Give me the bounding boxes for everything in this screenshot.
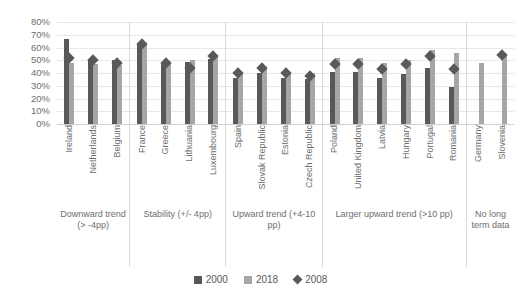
legend-label: 2018 [256,274,278,285]
bar-cluster[interactable] [346,22,370,124]
bar-2018[interactable] [262,67,267,124]
category-label-text: Hungary [402,125,411,161]
category-label-text: Latvia [378,125,387,151]
chart-legend: 200020182008 [0,274,521,285]
category-label-text: Greece [161,125,170,157]
legend-item[interactable]: 2000 [194,274,228,285]
bar-2018[interactable] [117,65,122,124]
category-label-group: FranceGreeceLithuaniaLuxembourg [129,125,225,205]
category-label-text: Belgium [113,125,122,160]
category-label: Portugal [418,125,442,205]
chart-container: 80%70%60%50%40%30%20%10%0% IrelandNether… [0,0,521,301]
bar-cluster[interactable] [178,22,202,124]
category-label: Czech Republic [298,125,322,205]
category-label-text: Netherlands [89,125,98,176]
y-axis: 80%70%60%50%40%30%20%10%0% [4,22,50,124]
bar-cluster[interactable] [490,22,514,124]
bar-cluster[interactable] [130,22,154,124]
y-axis-tick-label: 20% [4,94,50,104]
category-label: Ireland [57,125,81,205]
bar-2018[interactable] [238,73,243,124]
category-label: Slovak Republic [250,125,274,205]
y-axis-tick-label: 30% [4,81,50,91]
bar-cluster[interactable] [298,22,322,124]
group-labels: Downward trend (> -4pp)Stability (+/- 4p… [57,205,514,267]
category-label-group: SpainSlovak RepublicEstoniaCzech Republi… [225,125,321,205]
category-label: Belgium [105,125,129,205]
category-label-text: Slovenia [498,125,507,162]
y-axis-tick-label: 50% [4,55,50,65]
y-axis-tick-label: 70% [4,30,50,40]
category-label-text: Germany [474,125,483,164]
category-label: Lithuania [178,125,202,205]
category-label-text: Luxembourg [209,125,218,177]
category-label-text: Lithuania [185,125,194,164]
category-label: Hungary [394,125,418,205]
bar-2018[interactable] [213,55,218,124]
legend-label: 2008 [305,274,327,285]
bar-2018[interactable] [406,60,411,124]
bar-cluster[interactable] [250,22,274,124]
category-label: Poland [323,125,347,205]
category-label-text: Ireland [65,125,74,155]
category-label: Greece [154,125,178,205]
category-label-text: Czech Republic [305,125,314,190]
bar-cluster[interactable] [57,22,81,124]
category-label-text: Romania [449,125,458,163]
category-label: Slovenia [490,125,514,205]
bar-cluster[interactable] [154,22,178,124]
y-axis-tick-label: 60% [4,43,50,53]
bar-2018[interactable] [502,56,507,124]
bar-cluster[interactable] [370,22,394,124]
category-label-text: Estonia [281,125,290,157]
bar-cluster[interactable] [394,22,418,124]
bar-2018[interactable] [430,50,435,124]
bar-groups [57,22,514,124]
legend-label: 2000 [206,274,228,285]
trend-group-label: Upward trend (+4-10 pp) [225,205,321,267]
bar-2018[interactable] [69,63,74,124]
bar-2018[interactable] [286,72,291,124]
bar-cluster[interactable] [202,22,226,124]
legend-square-icon [244,276,252,284]
bar-group [225,22,321,124]
y-axis-tick-label: 10% [4,106,50,116]
category-label: United Kingdom [346,125,370,205]
category-label-text: Spain [234,125,243,150]
category-label-group: PolandUnited KingdomLatviaHungaryPortuga… [322,125,466,205]
category-label: Romania [442,125,466,205]
category-label: France [130,125,154,205]
bar-2018[interactable] [166,64,171,124]
category-label: Estonia [274,125,298,205]
bar-cluster[interactable] [274,22,298,124]
bar-group [322,22,466,124]
bar-group [57,22,129,124]
category-label: Netherlands [81,125,105,205]
bar-cluster[interactable] [105,22,129,124]
category-label-group: IrelandNetherlandsBelgium [57,125,129,205]
y-axis-tick-label: 40% [4,68,50,78]
bar-group [466,22,514,124]
bar-cluster[interactable] [442,22,466,124]
category-label: Spain [226,125,250,205]
bar-cluster[interactable] [226,22,250,124]
bar-2018[interactable] [93,64,98,124]
category-label: Latvia [370,125,394,205]
category-labels: IrelandNetherlandsBelgiumFranceGreeceLit… [57,125,514,205]
category-label-text: United Kingdom [354,125,363,191]
category-label-text: Poland [330,125,339,155]
bar-2018[interactable] [142,45,147,124]
legend-item[interactable]: 2008 [294,274,327,285]
category-label: Germany [467,125,491,205]
bar-cluster[interactable] [323,22,347,124]
category-label: Luxembourg [202,125,226,205]
bar-cluster[interactable] [81,22,105,124]
category-label-text: Portugal [426,125,435,161]
legend-item[interactable]: 2018 [244,274,278,285]
bar-cluster[interactable] [467,22,491,124]
bar-cluster[interactable] [418,22,442,124]
bar-group [129,22,225,124]
category-label-text: Slovak Republic [258,125,267,192]
trend-group-label: No long term data [466,205,514,267]
bar-2018[interactable] [479,63,484,124]
